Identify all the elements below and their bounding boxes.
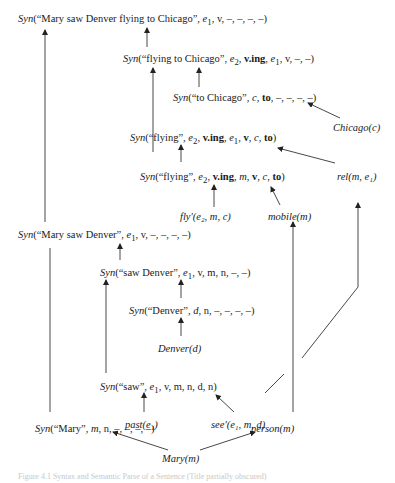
node-mary: Mary(m) (162, 452, 199, 465)
node-syn-flying-to-chicago: Syn(“flying to Chicago”, e2, v.ing, e1, … (123, 52, 314, 69)
node-chicago: Chicago(c) (333, 121, 380, 134)
edge-chicago-to-to-chicago (308, 103, 340, 118)
node-syn-flying-m: Syn(“flying”, e2, v.ing, m, v, c, to) (140, 170, 285, 187)
node-syn-to-chicago: Syn(“to Chicago”, c, to, –, –, –, –) (173, 91, 316, 104)
node-syn-mary-saw-denver-flying-to-chicago: Syn(“Mary saw Denver flying to Chicago”,… (18, 12, 267, 29)
edge-mary-to-person (200, 432, 255, 450)
edge-person-to-rel (302, 203, 358, 358)
edge-person-to-see (265, 374, 284, 393)
node-mobile: mobile(m) (268, 210, 311, 223)
node-syn-saw-denver: Syn(“saw Denver”, e1, v, m, n, –, –) (100, 266, 250, 283)
edge-mobile-to-flying2 (271, 187, 280, 205)
edge-see-to-saw (216, 395, 234, 412)
node-denver: Denver(d) (158, 342, 201, 355)
node-syn-saw: Syn(“saw”, e1, v, m, n, d, n) (100, 380, 217, 397)
node-person: person(m) (251, 422, 294, 435)
figure-caption: Figure 4.1 Syntax and Semantic Parse of … (18, 472, 267, 481)
node-fly: fly′(e₂, m, c) (180, 210, 231, 223)
edge-rel-to-flying (278, 148, 335, 163)
node-syn-mary: Syn(“Mary”, m, n, –, –, –, –) (35, 422, 155, 435)
node-rel: rel(m, e₁) (337, 170, 376, 183)
node-syn-mary-saw-denver: Syn(“Mary saw Denver”, e1, v, –, –, –, –… (18, 228, 191, 245)
node-syn-denver: Syn(“Denver”, d, n, –, –, –, –) (129, 304, 254, 317)
node-syn-flying-e1: Syn(“flying”, e2, v.ing, e1, v, c, to) (130, 131, 276, 148)
